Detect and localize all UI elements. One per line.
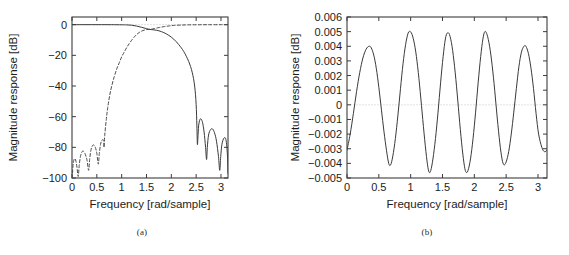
y-tick-label: −60 [48, 111, 67, 123]
plot-frame [347, 17, 547, 178]
y-tick-label: −0.003 [308, 143, 342, 155]
y-tick-label: 0.001 [314, 84, 342, 96]
figure-panel-a: 00.511.522.530−20−40−60−80−100Frequency … [0, 0, 284, 255]
series-highpass-response [72, 25, 228, 178]
y-tick-label: 0.006 [314, 11, 342, 23]
plot-a: 00.511.522.530−20−40−60−80−100Frequency … [0, 0, 284, 215]
x-tick-label: 1.5 [139, 181, 154, 193]
figure-container: 00.511.522.530−20−40−60−80−100Frequency … [0, 0, 569, 255]
x-tick-label: 0.5 [89, 181, 104, 193]
plot-frame [72, 17, 228, 178]
y-tick-label: −0.002 [308, 128, 342, 140]
y-tick-label: −100 [42, 172, 67, 184]
x-tick-label: 0.5 [371, 181, 386, 193]
y-tick-label: −0.001 [308, 113, 342, 125]
x-tick-label: 1 [119, 181, 125, 193]
x-axis-title: Frequency [rad/sample] [90, 198, 211, 210]
y-tick-label: 0.003 [314, 55, 342, 67]
y-tick-label: 0.004 [314, 40, 342, 52]
x-tick-label: 2 [168, 181, 174, 193]
x-tick-label: 2.5 [188, 181, 203, 193]
panel-a-caption: (a) [0, 227, 284, 237]
x-tick-label: 2.5 [499, 181, 514, 193]
plot-b: 00.511.522.530.0060.0050.0040.0030.0020.… [285, 0, 569, 215]
x-tick-label: 0 [344, 181, 350, 193]
figure-panel-b: 00.511.522.530.0060.0050.0040.0030.0020.… [285, 0, 569, 255]
y-tick-label: −40 [48, 80, 67, 92]
x-tick-label: 0 [69, 181, 75, 193]
x-tick-label: 3 [535, 181, 541, 193]
y-tick-label: −80 [48, 141, 67, 153]
y-tick-label: 0 [336, 99, 342, 111]
x-tick-label: 3 [218, 181, 224, 193]
y-tick-label: −0.004 [308, 157, 342, 169]
x-tick-label: 2 [471, 181, 477, 193]
x-axis-title: Frequency [rad/sample] [387, 198, 508, 210]
y-tick-label: −20 [48, 49, 67, 61]
x-tick-label: 1.5 [435, 181, 450, 193]
y-tick-label: 0.002 [314, 70, 342, 82]
y-tick-label: −0.005 [308, 172, 342, 184]
series-passband-ripple [347, 31, 547, 172]
y-tick-label: 0 [61, 19, 67, 31]
series-lowpass-response [72, 25, 228, 174]
y-axis-title: Magnitude response [dB] [289, 34, 301, 162]
x-tick-label: 1 [408, 181, 414, 193]
panel-b-caption: (b) [285, 227, 569, 237]
y-axis-title: Magnitude response [dB] [7, 34, 19, 162]
y-tick-label: 0.005 [314, 26, 342, 38]
